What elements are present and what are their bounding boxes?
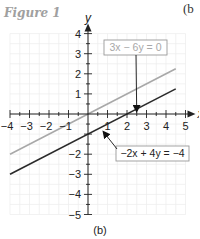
y-tick-label: −3 [68, 168, 81, 180]
annotation-arrow-2 [104, 132, 117, 149]
x-tick-label: −3 [20, 120, 33, 132]
y-tick-label: 3 [75, 48, 81, 60]
x-tick-label: −1 [59, 120, 72, 132]
x-tick-label: 1 [104, 120, 110, 132]
series-line-3x-6y-0 [10, 69, 176, 154]
x-axis-label: x [197, 107, 200, 121]
y-tick-label: −2 [68, 148, 81, 160]
chart: −4−3−2−112345−5−4−3−21234xy 3x − 6y = 0−… [0, 0, 199, 239]
x-axis-arrow-icon [188, 111, 196, 118]
caption: (b) [93, 224, 106, 236]
y-axis-label: y [84, 11, 92, 25]
series-line-neg2x-4y-neg4 [10, 89, 176, 174]
y-tick-label: −5 [68, 209, 81, 221]
x-tick-label: −4 [1, 120, 14, 132]
x-tick-label: 2 [124, 120, 130, 132]
x-tick-label: 3 [143, 120, 149, 132]
y-tick-label: −4 [68, 188, 81, 200]
y-tick-label: 1 [75, 88, 81, 100]
x-tick-label: 5 [182, 120, 188, 132]
grid [10, 34, 186, 215]
equation-label-neg2x-4y-neg4: −2x + 4y = −4 [120, 147, 184, 159]
y-tick-label: 4 [75, 28, 81, 40]
tick-labels: −4−3−2−112345−5−4−3−21234xy [1, 11, 199, 221]
y-tick-label: 2 [75, 68, 81, 80]
x-tick-label: 4 [163, 120, 169, 132]
y-axis-arrow-icon [85, 24, 92, 32]
x-tick-label: −2 [40, 120, 53, 132]
equation-label-3x-6y-0: 3x − 6y = 0 [110, 41, 162, 53]
